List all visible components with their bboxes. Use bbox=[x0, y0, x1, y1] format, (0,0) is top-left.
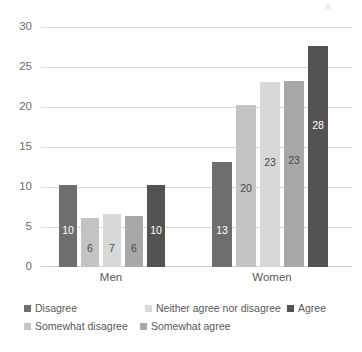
y-tick-label: 25 bbox=[0, 61, 32, 73]
y-tick-label: 5 bbox=[0, 221, 32, 233]
bar-women-disagree[interactable]: 13 bbox=[212, 162, 232, 267]
bar-group-women: 13 20 23 23 28 bbox=[212, 27, 332, 267]
bar-value-label: 7 bbox=[103, 243, 121, 254]
bar-value-label: 13 bbox=[212, 225, 232, 236]
bar-men-somewhat-disagree[interactable]: 6 bbox=[81, 218, 99, 267]
x-axis-labels: Men Women bbox=[41, 272, 352, 290]
legend-item-somewhat-agree[interactable]: Somewhat agree bbox=[140, 321, 230, 332]
plot-wrapper: 30 25 20 15 10 5 0 10 6 bbox=[0, 0, 362, 292]
legend-swatch-icon bbox=[24, 305, 31, 312]
bar-value-label: 28 bbox=[308, 120, 328, 131]
legend-swatch-icon bbox=[140, 323, 147, 330]
y-tick-label: 10 bbox=[0, 181, 32, 193]
bar-men-neither[interactable]: 7 bbox=[103, 214, 121, 267]
bar-value-label: 10 bbox=[147, 225, 165, 236]
y-tick-label: 30 bbox=[0, 21, 32, 33]
chart-legend: Disagree Neither agree nor disagree Agre… bbox=[0, 297, 362, 352]
bar-value-label: 6 bbox=[81, 243, 99, 254]
bar-value-label: 23 bbox=[260, 157, 280, 168]
legend-label: Somewhat agree bbox=[151, 321, 230, 332]
y-axis: 30 25 20 15 10 5 0 bbox=[0, 0, 38, 292]
legend-label: Disagree bbox=[35, 303, 77, 314]
y-tick-label: 15 bbox=[0, 141, 32, 153]
legend-item-neither-agree-nor-disagree[interactable]: Neither agree nor disagree bbox=[145, 303, 281, 314]
y-tick-label: 20 bbox=[0, 101, 32, 113]
bar-group-men: 10 6 7 6 10 bbox=[59, 27, 165, 267]
legend-label: Neither agree nor disagree bbox=[156, 303, 281, 314]
bar-value-label: 23 bbox=[284, 155, 304, 166]
bar-women-neither[interactable]: 23 bbox=[260, 82, 280, 267]
y-tick-label: 0 bbox=[0, 261, 32, 273]
bar-value-label: 20 bbox=[236, 183, 256, 194]
legend-item-disagree[interactable]: Disagree bbox=[24, 303, 77, 314]
bar-value-label: 6 bbox=[125, 243, 143, 254]
bar-men-agree[interactable]: 10 bbox=[147, 185, 165, 267]
legend-label: Agree bbox=[298, 303, 326, 314]
bar-men-somewhat-agree[interactable]: 6 bbox=[125, 216, 143, 267]
bar-women-somewhat-disagree[interactable]: 20 bbox=[236, 105, 256, 267]
legend-swatch-icon bbox=[24, 323, 31, 330]
x-label-men: Men bbox=[81, 272, 141, 284]
bar-value-label: 10 bbox=[59, 225, 77, 236]
bar-chart: 30 25 20 15 10 5 0 10 6 bbox=[0, 0, 362, 352]
bar-women-agree[interactable]: 28 bbox=[308, 46, 328, 267]
legend-item-somewhat-disagree[interactable]: Somewhat disagree bbox=[24, 321, 128, 332]
legend-label: Somewhat disagree bbox=[35, 321, 128, 332]
legend-swatch-icon bbox=[287, 305, 294, 312]
legend-item-agree[interactable]: Agree bbox=[287, 303, 326, 314]
plot-area: 10 6 7 6 10 13 bbox=[41, 27, 352, 267]
bar-women-somewhat-agree[interactable]: 23 bbox=[284, 81, 304, 267]
legend-swatch-icon bbox=[145, 305, 152, 312]
x-label-women: Women bbox=[237, 272, 307, 284]
bar-men-disagree[interactable]: 10 bbox=[59, 185, 77, 267]
